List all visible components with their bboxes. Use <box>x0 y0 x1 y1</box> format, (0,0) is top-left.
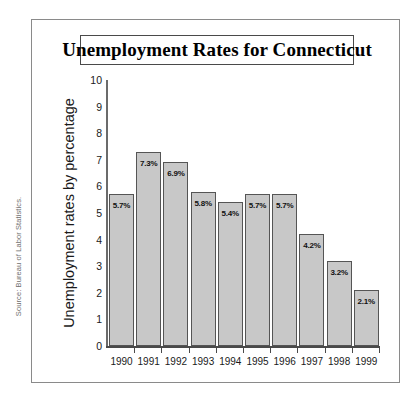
x-axis-tick <box>243 347 244 353</box>
x-axis-tick-label: 1994 <box>217 356 244 367</box>
y-axis-tick-label: 4 <box>80 234 102 246</box>
y-axis-tick-label: 2 <box>80 287 102 299</box>
bar-slot[interactable]: 4.2% <box>298 80 325 346</box>
bar[interactable] <box>218 202 243 346</box>
x-axis-tick <box>189 347 190 353</box>
bar-slot[interactable]: 3.2% <box>326 80 353 346</box>
bars-layer: 5.7%7.3%6.9%5.8%5.4%5.7%5.7%4.2%3.2%2.1% <box>108 80 380 346</box>
y-axis-tick-label: 10 <box>80 74 102 86</box>
bar[interactable] <box>163 162 188 346</box>
bar-value-label: 3.2% <box>326 268 353 277</box>
bar-slot[interactable]: 5.7% <box>271 80 298 346</box>
x-axis-tick <box>134 347 135 353</box>
x-axis-tick <box>216 347 217 353</box>
bar-slot[interactable]: 2.1% <box>353 80 380 346</box>
x-axis-tick-label: 1995 <box>244 356 271 367</box>
x-axis-tick <box>270 347 271 353</box>
y-axis-tick-label: 8 <box>80 127 102 139</box>
chart-title-box: Unemployment Rates for Connecticut <box>80 35 354 65</box>
x-axis-tick <box>297 347 298 353</box>
bar-slot[interactable]: 5.7% <box>244 80 271 346</box>
bar[interactable] <box>245 194 270 346</box>
y-axis-tick-labels: 109876543210 <box>80 80 102 346</box>
x-axis-tick-label: 1992 <box>162 356 189 367</box>
chart-frame: Unemployment Rates for Connecticut Unemp… <box>31 19 400 383</box>
page-title: Unemployment Rates for Connecticut <box>62 39 372 61</box>
bar-slot[interactable]: 5.8% <box>190 80 217 346</box>
x-axis-tick-label: 1993 <box>190 356 217 367</box>
y-axis-tick-label: 9 <box>80 101 102 113</box>
bar-value-label: 2.1% <box>353 297 380 306</box>
bar-value-label: 5.8% <box>190 199 217 208</box>
bar-value-label: 5.7% <box>244 201 271 210</box>
bar[interactable] <box>191 192 216 346</box>
x-axis-tick <box>161 347 162 353</box>
x-axis-tick-label: 1996 <box>271 356 298 367</box>
bar[interactable] <box>136 152 161 346</box>
y-axis-tick-label: 1 <box>80 313 102 325</box>
x-axis-tick-label: 1991 <box>135 356 162 367</box>
bar-value-label: 7.3% <box>135 159 162 168</box>
x-axis-tick-label: 1999 <box>353 356 380 367</box>
x-axis-tick <box>379 347 380 353</box>
x-axis-tick-label: 1990 <box>108 356 135 367</box>
bar-slot[interactable]: 6.9% <box>162 80 189 346</box>
bar-value-label: 6.9% <box>162 169 189 178</box>
x-axis-tick-label: 1997 <box>298 356 325 367</box>
bar-value-label: 4.2% <box>298 241 325 250</box>
y-axis-tick-label: 3 <box>80 260 102 272</box>
bar[interactable] <box>109 194 134 346</box>
x-axis-tick <box>352 347 353 353</box>
bar-value-label: 5.4% <box>217 209 244 218</box>
source-note: Source: Bureau of Labor Statistics. <box>14 192 23 322</box>
bar-value-label: 5.7% <box>271 201 298 210</box>
y-axis-tick-label: 5 <box>80 207 102 219</box>
bar[interactable] <box>299 234 324 346</box>
bar-slot[interactable]: 5.7% <box>108 80 135 346</box>
y-axis-tick-label: 6 <box>80 180 102 192</box>
y-axis-tick-label: 0 <box>80 340 102 352</box>
bar-slot[interactable]: 5.4% <box>217 80 244 346</box>
bar-value-label: 5.7% <box>108 201 135 210</box>
x-axis-tick-label: 1998 <box>326 356 353 367</box>
x-axis-tick-labels: 1990199119921993199419951996199719981999 <box>108 356 380 372</box>
y-axis-tick-label: 7 <box>80 154 102 166</box>
bar-slot[interactable]: 7.3% <box>135 80 162 346</box>
plot-area: 109876543210 5.7%7.3%6.9%5.8%5.4%5.7%5.7… <box>80 80 380 346</box>
bar[interactable] <box>272 194 297 346</box>
x-axis-tick <box>325 347 326 353</box>
y-axis-title: Unemployment rates by percentage <box>61 88 77 338</box>
